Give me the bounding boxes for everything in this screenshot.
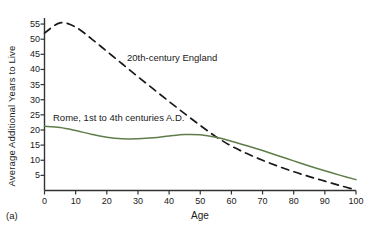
y-tick-label-35: 35: [22, 80, 40, 90]
y-tick-label-10: 10: [22, 155, 40, 165]
y-tick-label-55: 55: [22, 19, 40, 29]
x-axis-label: Age: [44, 210, 356, 221]
series-line-england: [45, 23, 357, 190]
x-tick-label-80: 80: [289, 196, 299, 206]
x-tick-label-0: 0: [42, 196, 47, 206]
y-tick-label-15: 15: [22, 140, 40, 150]
x-tick-label-90: 90: [320, 196, 330, 206]
y-tick-label-30: 30: [22, 95, 40, 105]
series-line-rome: [45, 126, 357, 179]
x-tick-label-40: 40: [164, 196, 174, 206]
chart-series-group: [45, 23, 357, 190]
x-tick-label-70: 70: [258, 196, 268, 206]
y-tick-label-25: 25: [22, 110, 40, 120]
series-annotation-rome: Rome, 1st to 4th centuries A.D.: [53, 112, 184, 123]
x-tick-label-20: 20: [102, 196, 112, 206]
y-tick-label-40: 40: [22, 64, 40, 74]
panel-caption: (a): [6, 210, 18, 221]
x-tick-label-30: 30: [133, 196, 143, 206]
y-tick-label-50: 50: [22, 34, 40, 44]
y-tick-label-45: 45: [22, 49, 40, 59]
series-annotation-england: 20th-century England: [127, 52, 217, 63]
x-tick-label-50: 50: [195, 196, 205, 206]
y-tick-label-20: 20: [22, 125, 40, 135]
y-tick-label-5: 5: [22, 170, 40, 180]
x-tick-label-60: 60: [226, 196, 236, 206]
figure-panel-a: Average Additional Years to Live 5101520…: [0, 0, 375, 232]
y-axis-label: Average Additional Years to Live: [0, 0, 22, 232]
x-tick-label-100: 100: [348, 196, 363, 206]
x-tick-label-10: 10: [71, 196, 81, 206]
chart-axes: [45, 18, 357, 191]
